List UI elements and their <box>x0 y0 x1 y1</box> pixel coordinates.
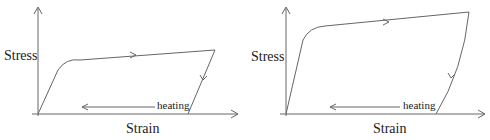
heating-label: heating <box>403 99 435 111</box>
x-axis-label: Strain <box>373 121 406 137</box>
right-diagram: Stress Strain heating <box>245 0 490 140</box>
y-axis-label: Stress <box>251 49 284 65</box>
heating-label: heating <box>157 99 189 111</box>
left-diagram: Stress Strain heating <box>0 0 245 140</box>
left-stress-strain-plot <box>0 0 245 140</box>
unloading-curve <box>188 50 215 114</box>
right-stress-strain-plot <box>245 0 490 140</box>
loading-curve <box>286 12 469 114</box>
y-axis-label: Stress <box>4 48 37 64</box>
unloading-curve <box>436 12 469 114</box>
forward-arrow-icon <box>130 52 136 58</box>
x-axis-label: Strain <box>126 121 159 137</box>
